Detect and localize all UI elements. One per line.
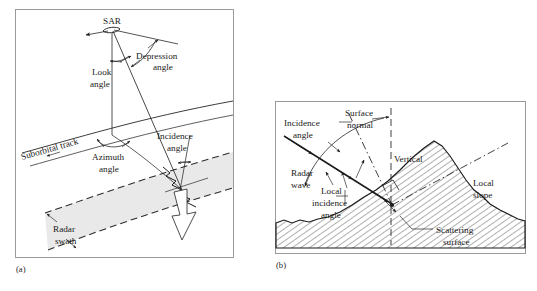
label-scattering-surface-line2: surface — [443, 237, 470, 247]
label-surface-normal-line2: normal — [347, 120, 373, 130]
panel-b: Incidence angle Surface normal Vertical … — [276, 102, 526, 271]
label-local-slope-line1: Local — [473, 178, 494, 188]
label-local-incidence-line1: Local — [321, 186, 342, 196]
label-vertical: Vertical — [394, 154, 423, 164]
label-local-incidence-line3: angle — [321, 210, 341, 220]
label-azimuth-angle-line2: angle — [99, 164, 119, 174]
label-radar-swath-line2: swath — [55, 236, 77, 246]
label-b-incidence-angle-line2: angle — [293, 130, 313, 140]
label-incidence-angle-line2: angle — [167, 143, 187, 153]
label-depression-angle-line1: Depression — [136, 51, 178, 61]
sar-geometry-figure: SAR Depression angle Look angle Suborbit… — [0, 0, 537, 291]
label-look-angle-line2: angle — [90, 79, 110, 89]
label-azimuth-angle-line1: Azimuth — [92, 152, 125, 162]
label-local-incidence-line2: incidence — [312, 198, 347, 208]
figure-container: SAR Depression angle Look angle Suborbit… — [0, 0, 537, 291]
panel-b-tag: (b) — [276, 260, 286, 270]
label-b-incidence-angle-line1: Incidence — [284, 118, 320, 128]
label-sar: SAR — [103, 16, 122, 26]
label-depression-angle-line2: angle — [153, 62, 173, 72]
label-scattering-surface-line1: Scattering — [436, 225, 474, 235]
label-local-slope-line2: slope — [473, 190, 492, 200]
label-look-angle-line1: Look — [92, 67, 112, 77]
label-radar-wave-line2: wave — [291, 180, 310, 190]
label-surface-normal-line1: Surface — [345, 108, 373, 118]
label-radar-wave-line1: Radar — [291, 168, 313, 178]
label-incidence-angle-line1: Incidence — [157, 131, 193, 141]
label-radar-swath-line1: Radar — [53, 224, 75, 234]
panel-a-tag: (a) — [16, 264, 26, 274]
panel-a: SAR Depression angle Look angle Suborbit… — [16, 10, 234, 275]
